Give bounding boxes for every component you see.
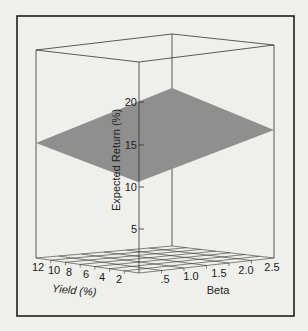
z-axis-label: Expected Return (%) — [110, 109, 122, 211]
yield-tick-6: 6 — [83, 268, 89, 280]
z-tick-20: 20 — [125, 96, 137, 108]
beta-tick-0.5: .5 — [160, 273, 169, 285]
expected-return-plane — [36, 88, 274, 182]
z-tick-5: 5 — [131, 223, 137, 235]
z-tick-10: 10 — [125, 181, 137, 193]
yield-tick-8: 8 — [66, 266, 72, 278]
yield-tick-10: 10 — [48, 264, 60, 276]
beta-tick-1.0: 1.0 — [183, 270, 198, 282]
beta-tick-1.5: 1.5 — [211, 267, 226, 279]
beta-tick-2.5: 2.5 — [264, 261, 279, 273]
yield-tick-12: 12 — [32, 261, 44, 273]
yield-tick-2: 2 — [116, 273, 122, 285]
3d-surface-chart: 20 15 10 5 Expected Return (%) 12 10 8 6… — [0, 0, 308, 331]
yield-axis-label: Yield (%) — [52, 282, 98, 298]
z-tick-15: 15 — [125, 139, 137, 151]
beta-axis-label: Beta — [207, 284, 231, 296]
beta-tick-2.0: 2.0 — [238, 264, 253, 276]
yield-tick-4: 4 — [99, 271, 105, 283]
